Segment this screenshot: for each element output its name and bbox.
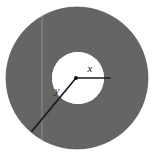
label-x: x — [87, 62, 93, 74]
annulus-diagram-canvas: x y — [0, 0, 160, 159]
label-y: y — [54, 84, 60, 96]
annulus-diagram-figure: x y — [0, 0, 160, 159]
circle-center-point — [74, 76, 78, 80]
